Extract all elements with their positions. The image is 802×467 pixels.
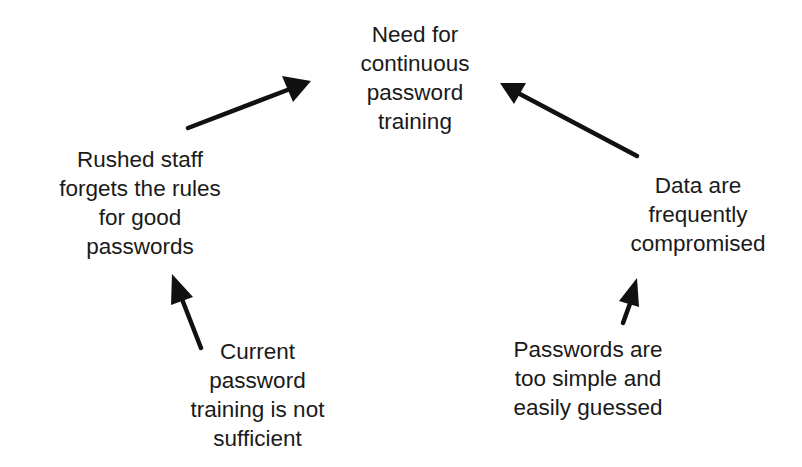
arrows-layer (0, 0, 802, 467)
arrow-current-to-rushed (171, 274, 201, 348)
arrow-simple-to-data (619, 278, 639, 323)
arrow-rushed-to-need (188, 76, 311, 128)
arrow-data-to-need (500, 83, 637, 156)
